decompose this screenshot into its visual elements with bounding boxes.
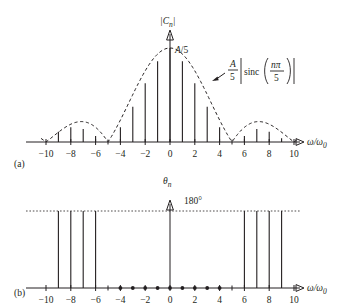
y-axis-title-b: θn [163,176,172,189]
anno-n-pi: nπ [271,60,281,70]
level-label-180: 180° [184,196,202,206]
figure-line-spectra: −10−8−6−4−20246810 |Cn| A/5 A 5 sinc nπ [0,0,338,308]
anno-five: 5 [274,73,279,83]
x-tick-label: 6 [242,295,247,305]
y-axis-a [167,30,174,142]
panel-a-magnitude-spectrum: −10−8−6−4−20246810 |Cn| A/5 A 5 sinc nπ [0,0,338,175]
x-tick-label: 0 [168,295,173,305]
x-tick-label: 8 [267,149,272,159]
x-axis-a [26,139,304,146]
x-tick-label: −4 [115,295,125,305]
envelope-annotation-a: A 5 sinc nπ 5 [212,58,294,84]
panel-label-b: (b) [14,288,25,298]
x-tick-label: 2 [192,295,197,305]
x-tick-label: 8 [267,295,272,305]
x-tick-label: −6 [91,295,101,305]
x-tick-label: −10 [39,295,54,305]
x-tick-label: 0 [168,149,173,159]
x-tick-label: −8 [66,295,76,305]
y-axis-b [167,200,174,288]
x-tick-label: −2 [140,295,150,305]
peak-value-label-a: A/5 [174,45,188,55]
anno-sinc: sinc [244,67,259,77]
x-tick-label: 6 [242,149,247,159]
x-tick-label: 4 [217,295,222,305]
y-axis-title-a: |Cn| [160,16,175,29]
x-tick-label: 4 [217,149,222,159]
x-tick-label: 10 [289,295,299,305]
x-tick-label: 10 [289,149,299,159]
panel-b-phase-spectrum: −10−8−6−4−20246810 θn 180° ω/ω0 [0,168,338,308]
x-tick-label: 2 [192,149,197,159]
x-tick-label: −10 [39,149,54,159]
anno-numerator-A: A [229,59,236,69]
x-tick-label: −4 [115,149,125,159]
x-tick-label: −8 [66,149,76,159]
x-tick-label: −6 [91,149,101,159]
x-axis-b [26,285,304,292]
anno-denominator-5: 5 [230,72,235,82]
x-axis-title-b: ω/ω0 [307,283,327,296]
x-axis-title-a: ω/ω0 [307,137,327,150]
x-tick-label: −2 [140,149,150,159]
